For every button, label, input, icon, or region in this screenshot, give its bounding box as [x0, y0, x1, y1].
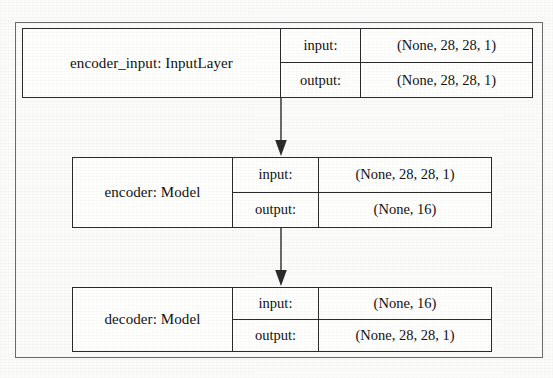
node-encoder-input-shape: (None, 28, 28, 1): [319, 158, 491, 192]
edge-encoder-to-decoder-arrow: [273, 226, 289, 288]
node-decoder-io-table: input: (None, 16) output: (None, 28, 28,…: [233, 288, 491, 351]
diagram-canvas: encoder_input: InputLayer input: (None, …: [0, 0, 553, 378]
node-encoder-input[interactable]: encoder_input: InputLayer input: (None, …: [22, 28, 533, 98]
node-encoder-input-label: input:: [233, 158, 319, 192]
node-decoder-output-shape: (None, 28, 28, 1): [319, 320, 491, 352]
node-encoder-output-shape: (None, 16): [319, 193, 491, 228]
node-encoder[interactable]: encoder: Model input: (None, 28, 28, 1) …: [72, 157, 492, 228]
node-encoder-output-label: output:: [233, 193, 319, 228]
node-encoder-output-row: output: (None, 16): [233, 193, 491, 228]
node-decoder[interactable]: decoder: Model input: (None, 16) output:…: [72, 287, 492, 352]
node-encoder-input-output-shape: (None, 28, 28, 1): [361, 63, 532, 97]
node-encoder-input-input-row: input: (None, 28, 28, 1): [281, 29, 532, 63]
node-encoder-input-input-label: input:: [281, 29, 361, 62]
node-encoder-input-output-row: output: (None, 28, 28, 1): [281, 63, 532, 97]
node-encoder-input-row: input: (None, 28, 28, 1): [233, 158, 491, 193]
node-encoder-input-label: encoder_input: InputLayer: [23, 29, 281, 97]
node-encoder-io-table: input: (None, 28, 28, 1) output: (None, …: [233, 158, 491, 227]
node-decoder-input-row: input: (None, 16): [233, 288, 491, 320]
node-decoder-output-label: output:: [233, 320, 319, 352]
node-encoder-input-input-shape: (None, 28, 28, 1): [361, 29, 532, 62]
node-decoder-label: decoder: Model: [73, 288, 233, 351]
node-encoder-label: encoder: Model: [73, 158, 233, 227]
node-decoder-output-row: output: (None, 28, 28, 1): [233, 320, 491, 352]
node-encoder-input-output-label: output:: [281, 63, 361, 97]
node-decoder-input-label: input:: [233, 288, 319, 319]
node-encoder-input-io-table: input: (None, 28, 28, 1) output: (None, …: [281, 29, 532, 97]
node-decoder-input-shape: (None, 16): [319, 288, 491, 319]
edge-input-to-encoder-arrow: [273, 96, 289, 158]
